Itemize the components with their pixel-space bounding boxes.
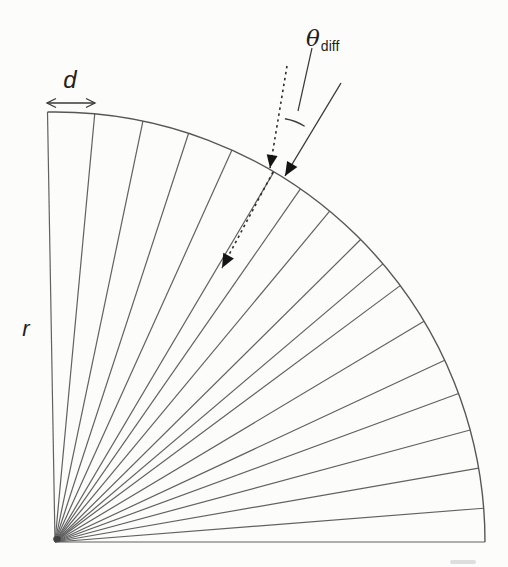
grating-surface-arc: [48, 112, 486, 542]
groove-line: [55, 286, 400, 542]
diffraction-angle-label: θdiff: [306, 25, 339, 54]
scan-smudge: [450, 560, 476, 564]
groove-lines: [48, 112, 486, 542]
groove-spacing-double-arrow-icon: [47, 99, 95, 108]
groove-line: [55, 150, 232, 542]
groove-line: [55, 114, 95, 542]
groove-line: [48, 112, 56, 542]
figure-canvas: d r θdiff: [0, 0, 508, 567]
diffraction-angle-arc: [285, 119, 305, 126]
groove-line: [55, 172, 274, 542]
groove-line: [55, 211, 330, 542]
groove-spacing-label: d: [63, 66, 77, 93]
fan-origin-ink-blob: [53, 536, 61, 542]
radius-label: r: [22, 316, 31, 341]
theta-symbol: θ: [306, 25, 320, 51]
grating-fan-diagram: d r θdiff: [0, 0, 508, 567]
transmitted-ray-arrowhead-icon: [222, 253, 234, 268]
incident-ray-arrowhead-icon: [267, 154, 278, 168]
groove-line: [55, 133, 189, 542]
groove-line: [55, 360, 445, 542]
theta-subscript: diff: [321, 38, 340, 54]
groove-line: [55, 321, 424, 542]
groove-line: [55, 394, 459, 542]
theta-label-leader-line: [298, 48, 312, 111]
diffracted-ray-arrowhead-icon: [285, 161, 297, 176]
diffracted-ray-solid-line: [285, 83, 341, 176]
incident-ray-dashed-line: [270, 66, 287, 168]
